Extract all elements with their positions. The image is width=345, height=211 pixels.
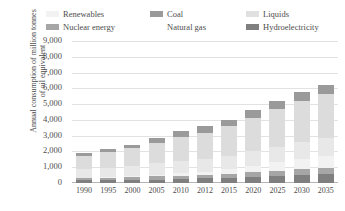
x-axis-tick-label: 2005 [145,186,169,196]
legend-swatch-liquids [246,11,259,17]
bar-segment-natural-gas [149,143,165,164]
bar-column [290,41,314,183]
bar-segment-liquids [124,166,140,176]
bar-segment-coal [318,85,334,94]
x-axis-tick-label: 2025 [265,186,289,196]
bar-stack [100,149,116,183]
bar-stack [197,126,213,183]
bar-segment-hydroelectricity [318,174,334,183]
bar-column [169,41,193,183]
bar-segment-liquids [245,151,261,166]
x-axis-tick-label: 2012 [193,186,217,196]
bar-group [72,41,338,183]
legend-label-hydroelectricity: Hydroelectricity [263,23,319,32]
bar-column [265,41,289,183]
bar-segment-renewables [318,156,334,168]
legend-swatch-hydroelectricity [246,24,259,30]
legend-item-natural-gas: Natural gas [150,21,246,33]
y-axis-tick-label: 9,000 [16,36,62,45]
bar-segment-natural-gas [197,133,213,160]
y-axis-tick-label: 8,000 [16,52,62,61]
y-axis-tick-label: 0 [16,178,62,187]
bar-stack [124,145,140,183]
bar-segment-hydroelectricity [221,178,237,183]
bar-segment-natural-gas [318,94,334,139]
bar-segment-liquids [76,169,92,178]
bar-stack [318,85,334,183]
bar-segment-liquids [197,159,213,172]
legend-item-nuclear-energy: Nuclear energy [46,21,150,33]
bar-segment-hydroelectricity [76,180,92,183]
bar-stack [149,138,165,183]
x-axis-tick-label: 2015 [217,186,241,196]
y-axis-tick-label: 4,000 [16,115,62,124]
bar-segment-renewables [294,159,310,169]
bar-segment-natural-gas [245,118,261,152]
bar-column [120,41,144,183]
x-axis-tick-label: 1990 [72,186,96,196]
bar-segment-liquids [269,147,285,163]
bar-column [193,41,217,183]
x-axis-tick-label: 2000 [120,186,144,196]
legend-item-renewables: Renewables [46,8,150,20]
bar-stack [269,101,285,183]
bar-column [96,41,120,183]
bar-segment-natural-gas [76,156,92,170]
x-axis-tick-label: 2030 [290,186,314,196]
bar-segment-liquids [100,168,116,177]
bar-stack [221,120,237,183]
y-axis-tick-label: 7,000 [16,68,62,77]
y-axis-tick-label: 3,000 [16,131,62,140]
energy-consumption-chart: Renewables Coal Liquids Nuclear energy N… [0,0,345,211]
bar-segment-natural-gas [221,126,237,156]
bar-column [314,41,338,183]
legend-row-2: Nuclear energy Natural gas Hydroelectric… [46,21,336,33]
bar-segment-liquids [318,138,334,156]
bar-segment-natural-gas [294,101,310,142]
plot-area: 9,0008,0007,0006,0005,0004,0003,0002,000… [72,41,338,183]
bar-segment-natural-gas [173,137,189,162]
bar-segment-hydroelectricity [294,175,310,183]
legend-label-nuclear-energy: Nuclear energy [63,23,115,32]
bar-segment-coal [221,120,237,127]
bar-segment-hydroelectricity [245,177,261,183]
bar-segment-renewables [269,162,285,170]
bar-segment-liquids [294,142,310,159]
bar-segment-hydroelectricity [197,178,213,183]
x-axis-labels: 1990199520002005201020122015202020252030… [72,186,338,200]
x-axis-tick-label: 2010 [169,186,193,196]
legend-item-liquids: Liquids [246,8,289,20]
bar-column [217,41,241,183]
legend-item-hydroelectricity: Hydroelectricity [246,21,319,33]
bar-segment-liquids [149,163,165,175]
legend-label-liquids: Liquids [263,10,289,19]
bar-stack [245,110,261,183]
chart-legend: Renewables Coal Liquids Nuclear energy N… [46,8,336,34]
y-axis-tick-label: 5,000 [16,99,62,108]
bar-segment-hydroelectricity [100,180,116,183]
bar-column [72,41,96,183]
legend-item-coal: Coal [150,8,246,20]
bar-segment-coal [245,110,261,117]
legend-label-coal: Coal [167,10,183,19]
bar-segment-hydroelectricity [173,179,189,183]
legend-swatch-natural-gas [150,24,163,30]
bar-stack [173,131,189,183]
bar-segment-nuclear-energy [318,168,334,175]
legend-label-renewables: Renewables [63,10,104,19]
x-axis-tick-label: 1995 [96,186,120,196]
bar-segment-coal [269,101,285,109]
y-axis-tick-label: 6,000 [16,83,62,92]
bar-segment-coal [294,92,310,100]
bar-segment-natural-gas [124,148,140,165]
bar-segment-natural-gas [269,109,285,147]
bar-column [145,41,169,183]
x-axis-tick-label: 2035 [314,186,338,196]
bar-segment-liquids [173,161,189,173]
x-axis-tick-label: 2020 [241,186,265,196]
bar-segment-hydroelectricity [124,180,140,183]
legend-label-natural-gas: Natural gas [167,23,206,32]
bar-segment-hydroelectricity [269,176,285,183]
legend-swatch-coal [150,11,163,17]
bar-column [241,41,265,183]
